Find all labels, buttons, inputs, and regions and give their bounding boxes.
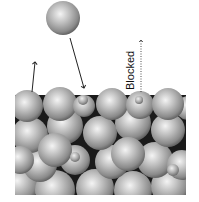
blocked-label: Blocked — [124, 51, 136, 90]
desorption-arrow — [32, 62, 35, 92]
deposition-arrow — [70, 38, 84, 88]
free-particle — [46, 1, 80, 35]
particle-deposition-diagram — [0, 0, 199, 202]
packed-particle-bed — [2, 87, 199, 202]
